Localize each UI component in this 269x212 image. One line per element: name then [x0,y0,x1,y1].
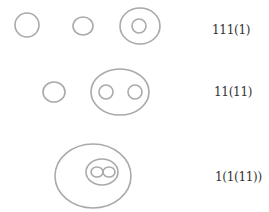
row-1-label: 111(1) [212,23,250,37]
row-2-circle-2-inner-left [99,85,113,99]
row-1-circle-1 [15,13,39,37]
row-1-circle-3-outer [120,8,160,44]
row-3-shapes [55,144,131,208]
row-3-label: 1(1(11)) [215,170,262,184]
row-1-circle-3-inner [132,19,146,33]
row-2-label: 11(11) [214,85,252,99]
row-2-circle-2-inner-right [128,85,142,99]
row-3-circle-inner-right [103,167,115,177]
row-2-circle-1 [43,82,65,102]
row-1-circle-2 [73,17,93,35]
row-3-circle-inner-left [91,167,103,177]
row-2-shapes [43,69,149,115]
row-1-shapes [15,8,160,44]
